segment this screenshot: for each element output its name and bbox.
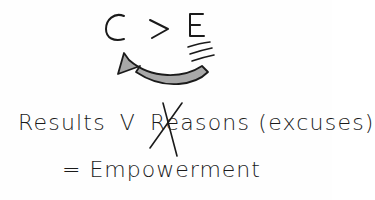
curved-arrow-icon [118, 53, 208, 84]
motion-lines-icon [188, 42, 214, 61]
empowerment-line: = Empowerment [62, 157, 261, 182]
results-text: Results [18, 110, 106, 135]
excuses-text: (excuses) [258, 110, 374, 135]
empowerment-text: Empowerment [89, 157, 260, 182]
letter-c [106, 15, 124, 40]
greater-than-sign [150, 20, 168, 38]
versus-text: V [120, 110, 136, 135]
reasons-text: Reasons [150, 110, 250, 135]
equals-sign: = [62, 157, 81, 182]
results-vs-reasons-line: ResultsVReasons (excuses) [18, 110, 375, 135]
letter-e [190, 14, 204, 36]
